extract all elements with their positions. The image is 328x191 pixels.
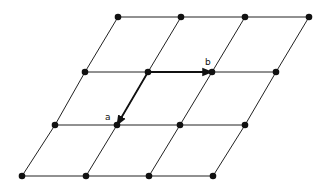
lattice-lines bbox=[22, 17, 309, 176]
lattice-point bbox=[83, 173, 90, 180]
vector-a-arrow bbox=[117, 72, 148, 125]
lattice-point bbox=[242, 14, 249, 21]
lattice-point bbox=[114, 122, 121, 129]
lattice-point bbox=[146, 173, 153, 180]
basis-vectors bbox=[117, 72, 212, 125]
lattice-point bbox=[209, 69, 216, 76]
lattice-point bbox=[82, 69, 89, 76]
lattice-point bbox=[178, 14, 185, 21]
lattice-point bbox=[177, 122, 184, 129]
lattice-point bbox=[306, 14, 313, 21]
lattice-diagram bbox=[0, 0, 328, 191]
lattice-point bbox=[210, 173, 217, 180]
lattice-point bbox=[19, 173, 26, 180]
vector-a-label: a bbox=[105, 113, 111, 122]
vector-b-label: b bbox=[205, 58, 211, 67]
lattice-point bbox=[115, 14, 122, 21]
lattice-points bbox=[19, 14, 313, 180]
lattice-point bbox=[52, 122, 59, 129]
lattice-point bbox=[145, 69, 152, 76]
lattice-point bbox=[242, 122, 249, 129]
lattice-point bbox=[273, 69, 280, 76]
